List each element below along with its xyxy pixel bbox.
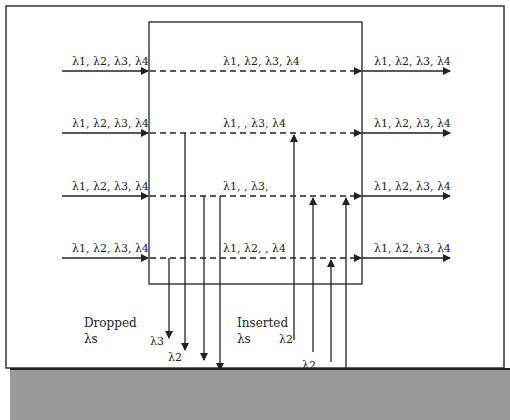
input-label: λ1, λ2, λ3, λ4 <box>72 242 149 255</box>
footer-bar <box>10 368 510 420</box>
dropped-wavelength-label: λ3 <box>150 335 164 348</box>
input-label: λ1, λ2, λ3, λ4 <box>72 55 149 68</box>
output-label: λ1, λ2, λ3, λ4 <box>374 55 451 68</box>
dropped-wavelength-label: λ2 <box>168 351 182 364</box>
inserted-wavelength-label: λ2 <box>279 333 293 346</box>
through-label: λ1, λ2, , λ4 <box>223 242 286 255</box>
through-label: λ1, λ2, λ3, λ4 <box>223 55 300 68</box>
through-label: λ1, , λ3, <box>223 180 268 193</box>
dropped-caption-line1: Dropped <box>84 316 137 330</box>
through-label: λ1, , λ3, λ4 <box>223 117 286 130</box>
inserted-caption-line2: λs <box>237 332 251 346</box>
input-label: λ1, λ2, λ3, λ4 <box>72 117 149 130</box>
output-label: λ1, λ2, λ3, λ4 <box>374 117 451 130</box>
output-label: λ1, λ2, λ3, λ4 <box>374 180 451 193</box>
output-label: λ1, λ2, λ3, λ4 <box>374 242 451 255</box>
inserted-caption-line1: Inserted <box>237 316 288 330</box>
input-label: λ1, λ2, λ3, λ4 <box>72 180 149 193</box>
dropped-caption-line2: λs <box>84 332 98 346</box>
